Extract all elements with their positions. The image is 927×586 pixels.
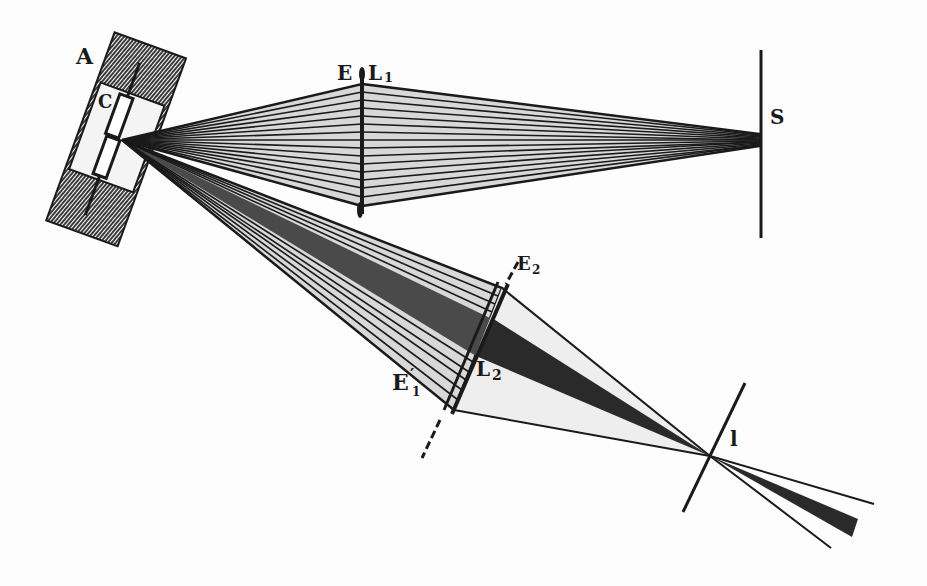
label-l1: L bbox=[368, 61, 382, 85]
label-e1-prime-sub: 1 bbox=[412, 385, 420, 399]
label-e1-prime-mark: ′ bbox=[410, 365, 414, 384]
label-e2-sub: 2 bbox=[532, 263, 540, 277]
optics-diagram: A C E L 1 S E 2 E ′ 1 L 2 l bbox=[0, 0, 927, 586]
label-e2: E bbox=[517, 253, 531, 274]
label-l2-sub: 2 bbox=[492, 367, 502, 383]
diaphragm-e1-prime bbox=[422, 420, 440, 458]
label-s: S bbox=[770, 105, 784, 129]
label-l: l bbox=[730, 427, 738, 451]
label-a: A bbox=[75, 43, 94, 69]
upper-beam-projected bbox=[362, 84, 760, 206]
label-e1: E bbox=[337, 61, 352, 85]
label-e1-prime: E bbox=[392, 369, 409, 395]
diverging-rays bbox=[710, 456, 874, 548]
label-l1-sub: 1 bbox=[384, 70, 393, 85]
label-c: C bbox=[98, 91, 112, 112]
label-l2: L bbox=[476, 357, 490, 381]
